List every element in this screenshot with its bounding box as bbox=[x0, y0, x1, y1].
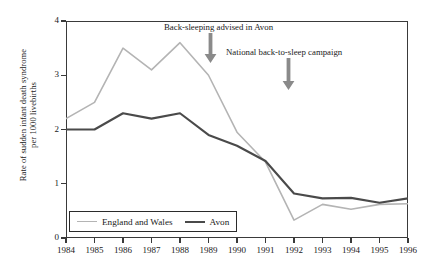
x-tick-mark bbox=[236, 238, 237, 243]
series-line-avon bbox=[66, 113, 408, 203]
legend-item-england-and-wales: England and Wales bbox=[77, 217, 185, 227]
down-arrow-icon-back-sleeping-advised-avon bbox=[204, 33, 217, 63]
x-tick-mark bbox=[350, 238, 351, 243]
y-axis-title-line-1: Rate of sudden infant death syndrome bbox=[18, 49, 29, 181]
annotation-label-national-back-to-sleep-campaign: National back-to-sleep campaign bbox=[226, 47, 342, 57]
x-tick-mark bbox=[265, 238, 266, 243]
y-tick-label: 1 bbox=[46, 179, 59, 188]
x-tick-mark bbox=[122, 238, 123, 243]
x-tick-mark bbox=[179, 238, 180, 243]
x-tick-label: 1996 bbox=[388, 245, 428, 255]
y-tick-label: 0 bbox=[46, 233, 59, 242]
legend-line-icon-england-and-wales bbox=[77, 221, 97, 222]
y-tick-label: 2 bbox=[46, 125, 59, 134]
x-tick-mark bbox=[407, 238, 408, 243]
y-tick-label: 4 bbox=[46, 16, 59, 25]
legend-item-avon: Avon bbox=[185, 217, 230, 227]
y-axis-title: Rate of sudden infant death syndrome per… bbox=[14, 0, 42, 230]
series-line-england-and-wales bbox=[66, 43, 408, 220]
x-tick-mark bbox=[293, 238, 294, 243]
legend-line-icon-avon bbox=[185, 221, 205, 223]
x-tick-mark bbox=[65, 238, 66, 243]
x-tick-mark bbox=[151, 238, 152, 243]
legend: England and Wales Avon bbox=[69, 211, 237, 232]
x-tick-mark bbox=[94, 238, 95, 243]
down-arrow-icon-national-back-to-sleep-campaign bbox=[282, 58, 295, 90]
x-tick-mark bbox=[322, 238, 323, 243]
sids-rate-line-chart: Rate of sudden infant death syndrome per… bbox=[0, 0, 447, 270]
y-tick-label: 3 bbox=[46, 70, 59, 79]
legend-label-england-and-wales: England and Wales bbox=[102, 217, 173, 227]
legend-label-avon: Avon bbox=[210, 217, 230, 227]
y-axis-title-line-2: per 1000 livebirths bbox=[28, 82, 39, 148]
x-tick-mark bbox=[208, 238, 209, 243]
x-tick-mark bbox=[379, 238, 380, 243]
annotation-label-back-sleeping-advised-avon: Back-sleeping advised in Avon bbox=[164, 22, 273, 32]
